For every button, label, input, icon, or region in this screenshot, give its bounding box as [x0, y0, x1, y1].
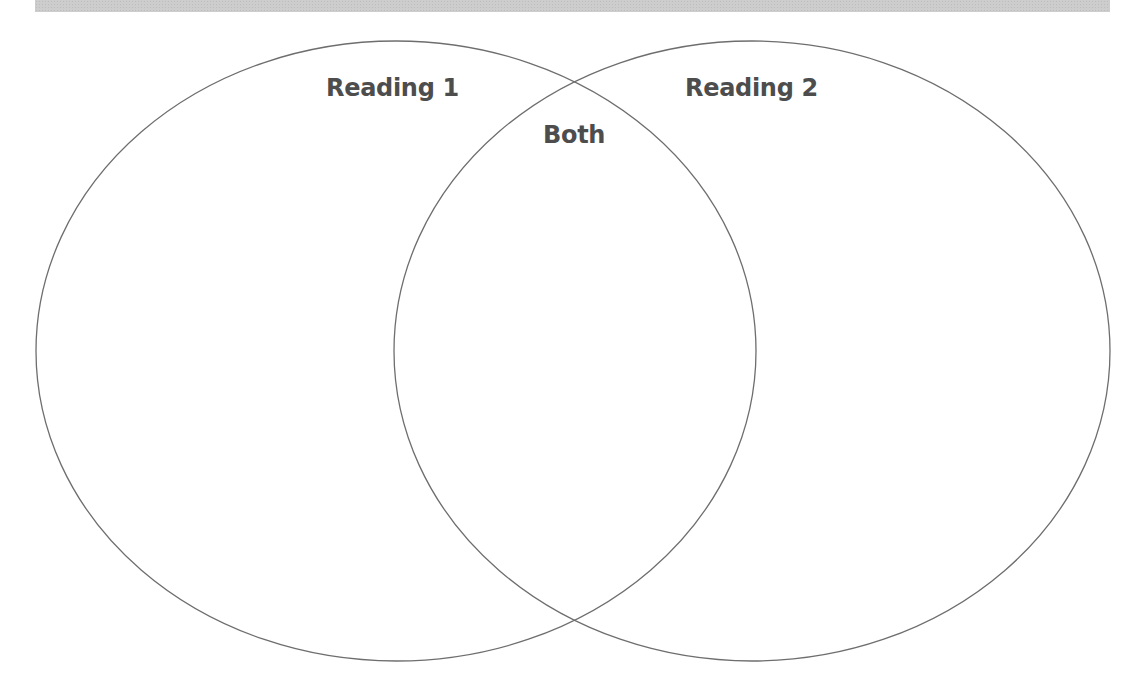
right-circle-reading-2 [394, 41, 1110, 661]
right-set-label: Reading 2 [685, 76, 818, 100]
left-circle-reading-1 [36, 41, 756, 661]
venn-diagram [0, 0, 1142, 693]
intersection-label: Both [543, 123, 605, 147]
left-set-label: Reading 1 [326, 76, 459, 100]
